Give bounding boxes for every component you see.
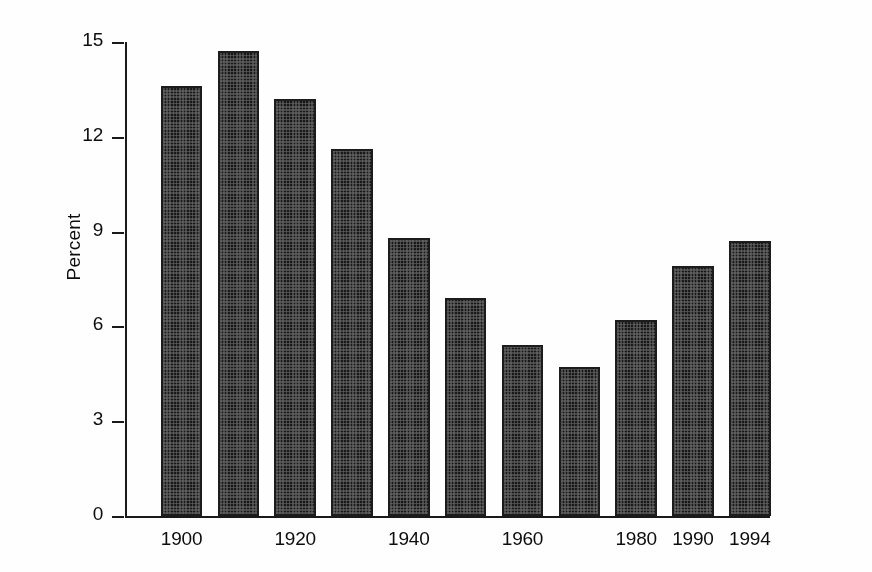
y-axis-tick-mark [112, 421, 124, 423]
x-axis-line [125, 516, 770, 518]
bar [502, 345, 543, 516]
bar [445, 298, 486, 516]
bar [559, 367, 600, 516]
bar [672, 266, 713, 516]
chart-page: 03691215 1900192019401960198019901994 Pe… [0, 0, 872, 572]
y-axis-tick-mark [112, 42, 124, 44]
bar [161, 86, 202, 516]
bar [615, 320, 656, 516]
y-axis-tick-label: 0 [43, 503, 103, 525]
bar [274, 99, 315, 516]
y-axis-tick-mark [112, 137, 124, 139]
bar-chart-plot-area: 03691215 1900192019401960198019901994 Pe… [0, 0, 872, 572]
x-axis-tick-label: 1980 [615, 528, 656, 550]
x-axis-tick-label: 1990 [672, 528, 713, 550]
y-axis-title: Percent [63, 187, 85, 307]
y-axis-tick-label: 3 [43, 408, 103, 430]
y-axis-tick-mark [112, 516, 124, 518]
y-axis-tick-label: 6 [43, 313, 103, 335]
y-axis-tick-mark [112, 232, 124, 234]
bar [218, 51, 259, 516]
bar [388, 238, 429, 516]
y-axis-tick-mark [112, 326, 124, 328]
bar [729, 241, 770, 516]
x-axis-tick-label: 1940 [388, 528, 429, 550]
y-axis-tick-label: 15 [43, 29, 103, 51]
y-axis-line [125, 42, 127, 518]
x-axis-tick-label: 1994 [729, 528, 770, 550]
y-axis-tick-label: 12 [43, 124, 103, 146]
x-axis-tick-label: 1960 [502, 528, 543, 550]
x-axis-tick-label: 1920 [274, 528, 315, 550]
bar [331, 149, 372, 516]
x-axis-tick-label: 1900 [161, 528, 202, 550]
